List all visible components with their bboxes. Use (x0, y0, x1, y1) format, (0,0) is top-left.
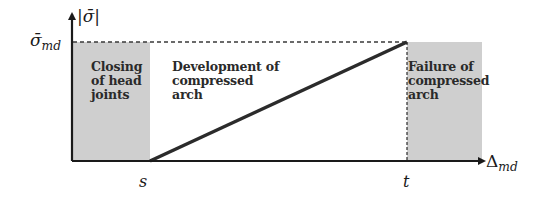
diagram-canvas: |σ̄| σ̄md Closing of head joints Develop… (0, 0, 547, 198)
y-axis-label: |σ̄| (77, 6, 100, 26)
region-failure-label: Failure of compressed arch (408, 60, 489, 102)
x-axis-label-sub: md (498, 160, 517, 174)
max-stress-label-sub: md (42, 39, 61, 53)
max-stress-label-base: σ̄ (30, 30, 42, 50)
x-tick-t-label: t (403, 172, 409, 191)
region-development-label: Development of compressed arch (172, 60, 279, 102)
x-axis-label-base: Δ (486, 151, 498, 171)
max-stress-label: σ̄md (30, 30, 61, 53)
x-tick-s-label: s (139, 172, 147, 191)
y-axis-label-text: |σ̄| (77, 6, 100, 26)
x-axis-label: Δmd (486, 151, 518, 174)
region-closing-label: Closing of head joints (91, 60, 142, 102)
